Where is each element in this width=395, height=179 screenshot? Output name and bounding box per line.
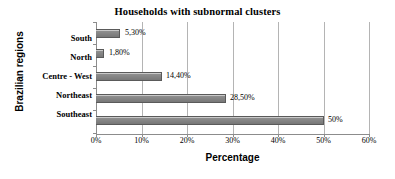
y-tick-0 <box>93 22 96 23</box>
bar-label-centre-west: 14,40% <box>166 71 191 80</box>
gridline-50 <box>324 22 325 134</box>
gridline-60 <box>369 22 370 134</box>
x-axis-label-10: 10% <box>122 136 162 145</box>
y-axis-label-centre-west: Centre - West <box>16 71 92 81</box>
x-axis-title: Percentage <box>96 152 369 163</box>
x-axis-label-30: 30% <box>213 136 253 145</box>
chart-title: Households with subnormal clusters <box>0 6 395 17</box>
y-tick-1 <box>93 44 96 45</box>
y-axis-label-northeast: Northeast <box>16 90 92 100</box>
y-tick-2 <box>93 66 96 67</box>
bar-northeast <box>96 94 226 103</box>
y-tick-3 <box>93 88 96 89</box>
plot-area: 5,30% 1,80% 14,40% 28,50% 50% <box>96 22 369 134</box>
bar-centre-west <box>96 72 162 81</box>
y-axis-label-south: South <box>16 33 92 43</box>
bar-label-south: 5,30% <box>125 28 146 37</box>
y-tick-4 <box>93 110 96 111</box>
x-axis-label-60: 60% <box>349 136 389 145</box>
x-axis-label-20: 20% <box>167 136 207 145</box>
bar-label-north: 1,80% <box>109 48 130 57</box>
bar-label-southeast: 50% <box>328 115 343 124</box>
bar-southeast <box>96 116 324 125</box>
bar-label-northeast: 28,50% <box>230 93 255 102</box>
bar-south <box>96 29 120 38</box>
y-axis-label-southeast: Southeast <box>16 109 92 119</box>
x-axis-label-0: 0% <box>76 136 116 145</box>
x-axis-label-40: 40% <box>258 136 298 145</box>
y-axis-label-north: North <box>16 52 92 62</box>
y-axis-category-labels: South North Centre - West Northeast Sout… <box>16 24 92 130</box>
bar-chart: Households with subnormal clusters Brazi… <box>0 0 395 179</box>
x-axis-label-50: 50% <box>304 136 344 145</box>
bar-north <box>96 49 104 58</box>
